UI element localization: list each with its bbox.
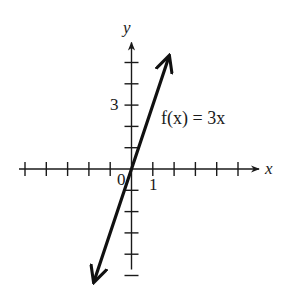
x-tick-label-1: 1 xyxy=(149,175,158,194)
y-axis-label: y xyxy=(121,18,131,37)
origin-label: 0 xyxy=(117,170,126,189)
function-annotation: f(x) = 3x xyxy=(161,108,225,129)
axes xyxy=(19,43,259,270)
function-graph: x y 0 1 3 f(x) = 3x xyxy=(0,0,287,303)
y-tick-label-3: 3 xyxy=(110,95,119,114)
labels: x y 0 1 3 f(x) = 3x xyxy=(110,18,273,194)
x-axis-label: x xyxy=(264,159,273,178)
